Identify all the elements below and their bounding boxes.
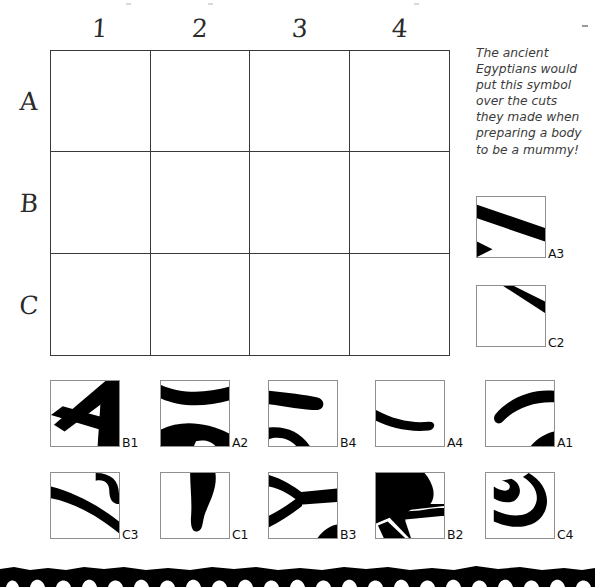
tile-frame bbox=[50, 380, 120, 447]
tile-label: C3 bbox=[122, 527, 138, 542]
tile-frame bbox=[485, 472, 555, 539]
row-header-b: B bbox=[10, 152, 47, 254]
tile-artwork-a3 bbox=[477, 197, 545, 257]
grid-cell-b1[interactable] bbox=[51, 152, 151, 253]
tile-label: A3 bbox=[548, 246, 564, 261]
grid-cell-c1[interactable] bbox=[51, 254, 151, 355]
tile-frame bbox=[476, 196, 546, 258]
tile-artwork-a4 bbox=[376, 381, 444, 446]
puzzle-tile-a4[interactable]: A4 bbox=[375, 380, 445, 447]
grid-cell-c3[interactable] bbox=[250, 254, 350, 355]
answer-grid: 1 2 3 4 A B C bbox=[50, 50, 450, 356]
tile-label: B3 bbox=[340, 527, 356, 542]
tile-artwork-c3 bbox=[51, 473, 119, 538]
tile-frame bbox=[160, 380, 230, 447]
puzzle-tile-b1[interactable]: B1 bbox=[50, 380, 120, 447]
tile-artwork-c1 bbox=[161, 473, 229, 538]
column-header-2: 2 bbox=[149, 14, 251, 43]
puzzle-tile-c2[interactable]: C2 bbox=[476, 285, 546, 347]
tile-frame bbox=[375, 380, 445, 447]
grid-cell-c4[interactable] bbox=[350, 254, 450, 355]
column-header-4: 4 bbox=[349, 14, 451, 43]
puzzle-tile-c4[interactable]: C4 bbox=[485, 472, 555, 539]
tile-frame bbox=[476, 285, 546, 347]
tile-frame bbox=[50, 472, 120, 539]
band-artwork bbox=[0, 563, 595, 587]
puzzle-tile-a2[interactable]: A2 bbox=[160, 380, 230, 447]
tile-artwork-a1 bbox=[486, 381, 554, 446]
grid-cell-b4[interactable] bbox=[350, 152, 450, 253]
puzzle-tile-a1[interactable]: A1 bbox=[485, 380, 555, 447]
tile-label: C2 bbox=[548, 335, 564, 350]
tile-artwork-b3 bbox=[269, 473, 337, 538]
tile-frame bbox=[375, 472, 445, 539]
tile-frame bbox=[268, 380, 338, 447]
tile-label: C4 bbox=[557, 527, 573, 542]
tile-label: B4 bbox=[340, 435, 356, 450]
tile-artwork-b2 bbox=[376, 473, 444, 538]
puzzle-tile-c3[interactable]: C3 bbox=[50, 472, 120, 539]
grid-cell-a3[interactable] bbox=[250, 51, 350, 152]
tile-artwork-a2 bbox=[161, 381, 229, 446]
puzzle-tile-b2[interactable]: B2 bbox=[375, 472, 445, 539]
scan-speck bbox=[208, 3, 213, 5]
grid-cell-a2[interactable] bbox=[151, 51, 251, 152]
fun-fact-note: The ancient Egyptians would put this sym… bbox=[476, 45, 588, 158]
tile-label: A4 bbox=[447, 435, 463, 450]
grid-table bbox=[50, 50, 450, 356]
tile-label: C1 bbox=[232, 527, 248, 542]
decorative-border-band bbox=[0, 563, 595, 587]
puzzle-tile-c1[interactable]: C1 bbox=[160, 472, 230, 539]
puzzle-tile-a3[interactable]: A3 bbox=[476, 196, 546, 258]
worksheet-page: 1 2 3 4 A B C The ancient Egyptians woul… bbox=[0, 0, 595, 587]
scan-speck bbox=[414, 3, 419, 5]
tile-label: B1 bbox=[122, 435, 138, 450]
tile-frame bbox=[485, 380, 555, 447]
scan-speck bbox=[126, 3, 131, 5]
row-header-a: A bbox=[10, 50, 47, 152]
column-header-1: 1 bbox=[49, 14, 151, 43]
grid-cell-b3[interactable] bbox=[250, 152, 350, 253]
grid-cell-a1[interactable] bbox=[51, 51, 151, 152]
tile-artwork-c4 bbox=[486, 473, 554, 538]
scan-speck bbox=[582, 25, 588, 27]
tile-frame bbox=[160, 472, 230, 539]
grid-cell-a4[interactable] bbox=[350, 51, 450, 152]
column-header-3: 3 bbox=[249, 14, 351, 43]
tile-artwork-c2 bbox=[477, 286, 545, 346]
tile-frame bbox=[268, 472, 338, 539]
puzzle-tile-b4[interactable]: B4 bbox=[268, 380, 338, 447]
tile-label: A1 bbox=[557, 435, 573, 450]
grid-cell-b2[interactable] bbox=[151, 152, 251, 253]
grid-cell-c2[interactable] bbox=[151, 254, 251, 355]
tile-label: A2 bbox=[232, 435, 248, 450]
puzzle-tile-b3[interactable]: B3 bbox=[268, 472, 338, 539]
tile-artwork-b1 bbox=[51, 381, 119, 446]
tile-label: B2 bbox=[447, 527, 463, 542]
row-header-c: C bbox=[10, 254, 47, 356]
tile-artwork-b4 bbox=[269, 381, 337, 446]
